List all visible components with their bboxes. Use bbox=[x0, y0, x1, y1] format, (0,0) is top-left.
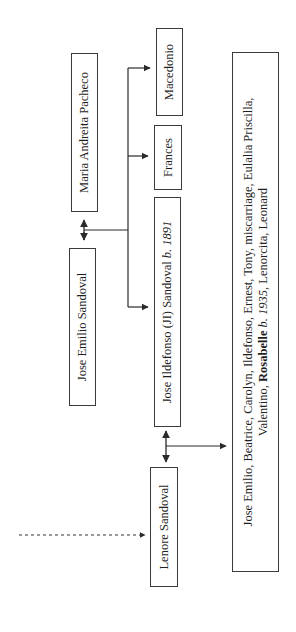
born-prefix: b. bbox=[160, 249, 175, 258]
person-name: Jose Ildefonso (JI) Sandoval bbox=[160, 258, 175, 403]
born-prefix: b. bbox=[256, 318, 270, 331]
children-text: , Lenorcita, Leonard bbox=[256, 188, 270, 290]
person-jose-ildefonso-sandoval: Jose Ildefonso (JI) Sandoval b. 1891 bbox=[154, 197, 181, 427]
person-frances: Frances bbox=[154, 125, 182, 190]
family-tree-diagram: Maria Andreita Pacheco Jose Emilio Sando… bbox=[0, 0, 296, 632]
person-name: Frances bbox=[161, 138, 176, 177]
children-line-2: Valentino, Rosabelle b. 1935, Lenorcita,… bbox=[256, 188, 271, 436]
person-name: Maria Andreita Pacheco bbox=[77, 72, 92, 193]
person-name: Macedonio bbox=[162, 44, 177, 100]
born-year: 1935 bbox=[256, 290, 270, 318]
person-maria-andreita-pacheco: Maria Andreita Pacheco bbox=[71, 53, 98, 212]
person-jose-emilio-sandoval: Jose Emilio Sandoval bbox=[69, 248, 96, 406]
person-name: Jose Emilio Sandoval bbox=[75, 273, 90, 381]
children-list-box: Jose Emilio, Beatrice, Carolyn, Ildefons… bbox=[232, 52, 279, 572]
person-name: Lenore Sandoval bbox=[157, 484, 172, 569]
children-line-1: Jose Emilio, Beatrice, Carolyn, Ildefons… bbox=[241, 98, 256, 527]
highlighted-child: Rosabelle bbox=[256, 331, 270, 382]
person-macedonio: Macedonio bbox=[156, 28, 183, 116]
children-text: Valentino, bbox=[256, 382, 270, 436]
person-lenore-sandoval: Lenore Sandoval bbox=[150, 467, 178, 587]
born-year: 1891 bbox=[160, 221, 175, 246]
